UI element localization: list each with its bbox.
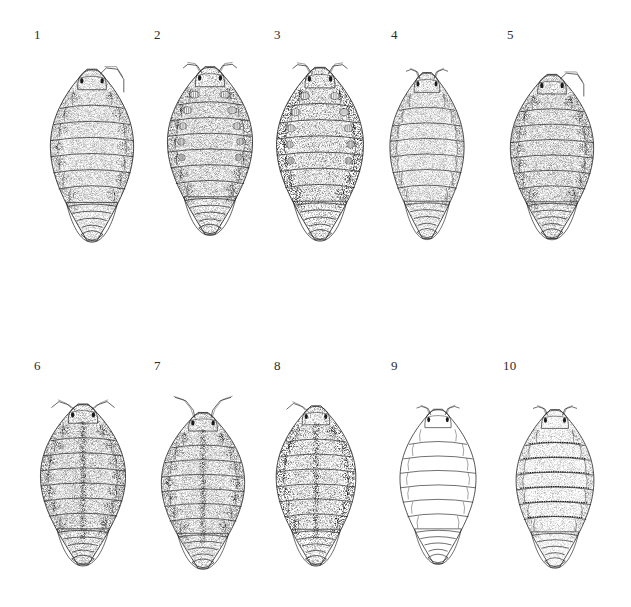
specimen-drawing-9 — [396, 392, 480, 576]
figure-row-top: 1 2 3 4 5 — [0, 0, 631, 330]
specimen-drawing-4 — [386, 54, 468, 252]
specimen-drawing-5 — [506, 56, 598, 252]
specimen-drawing-1 — [46, 50, 138, 255]
specimen-drawing-8 — [272, 388, 360, 578]
specimen-drawing-3 — [272, 48, 368, 254]
specimen-drawing-10 — [512, 392, 598, 580]
figure-label-5: 5 — [507, 28, 514, 41]
figure-label-8: 8 — [274, 359, 281, 372]
figure-label-1: 1 — [34, 28, 41, 41]
figure-label-9: 9 — [391, 359, 398, 372]
figure-label-6: 6 — [34, 359, 41, 372]
figure-label-10: 10 — [503, 359, 516, 372]
specimen-drawing-7 — [157, 395, 249, 581]
figure-label-2: 2 — [154, 28, 161, 41]
specimen-drawing-2 — [163, 48, 257, 248]
figure-row-bottom: 6 7 8 9 10 — [0, 330, 631, 607]
specimen-drawing-6 — [36, 386, 130, 578]
figure-label-7: 7 — [154, 359, 161, 372]
figure-label-4: 4 — [391, 28, 398, 41]
illustration-plate: 1 2 3 4 5 — [0, 0, 631, 607]
figure-label-3: 3 — [274, 28, 281, 41]
